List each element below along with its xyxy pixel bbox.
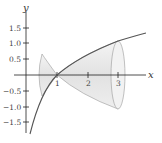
x-tick-label-3: 3 [116,79,121,88]
y-tick-label-0.5: 0.5 [9,55,21,64]
x-tick-label-1: 1 [55,79,60,88]
y-tick-label-neg1.0: −1.0 [3,103,21,112]
x-axis-label: x [148,69,154,80]
x-tick-label-2: 2 [86,79,91,88]
y-tick-label-neg1.5: −1.5 [3,118,21,127]
y-tick-label-neg0.5: −0.5 [3,87,21,96]
y-tick-label-1.0: 1.0 [9,39,21,48]
y-axis-label: y [22,2,29,13]
solid-of-revolution-figure: y x 1 2 3 1.5 1.0 0.5 −0.5 −1.0 −1.5 [0,0,162,143]
y-tick-label-1.5: 1.5 [9,24,21,33]
